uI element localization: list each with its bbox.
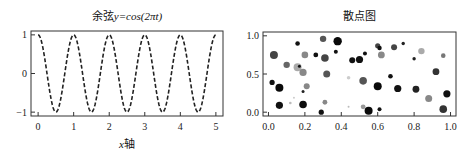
scatter-point (443, 90, 450, 97)
scatter-point (365, 107, 373, 115)
scatter-point (298, 65, 301, 68)
scatter-point (276, 102, 283, 109)
scatter-point (304, 83, 310, 89)
scatter-point (289, 102, 292, 105)
scatter-point (441, 53, 446, 58)
scatter-point (320, 36, 326, 42)
scatter-ytick-label: 0.5 (247, 69, 260, 80)
scatter-point (412, 57, 415, 60)
scatter-chart: 0.00.20.40.60.81.00.00.51.0 (0, 0, 468, 157)
scatter-point (374, 82, 382, 90)
scatter-point (349, 57, 355, 63)
scatter-point (359, 77, 367, 85)
scatter-point (321, 54, 329, 62)
scatter-ytick-label: 1.0 (247, 30, 260, 41)
scatter-point (302, 52, 309, 59)
scatter-point (356, 56, 363, 63)
scatter-point (363, 51, 367, 55)
scatter-point (378, 52, 385, 59)
scatter-xtick-label: 1.0 (444, 121, 457, 132)
scatter-point (293, 97, 295, 99)
scatter-point (377, 46, 381, 50)
scatter-point (319, 110, 324, 115)
scatter-point (347, 76, 351, 80)
scatter-point (361, 104, 366, 109)
scatter-point (433, 68, 440, 75)
scatter-point (402, 42, 405, 45)
scatter-point (299, 69, 306, 76)
scatter-xtick-label: 0.4 (335, 121, 348, 132)
scatter-ytick-label: 0.0 (247, 107, 260, 118)
scatter-point (323, 100, 328, 105)
scatter-point (348, 106, 350, 108)
scatter-point (270, 80, 275, 85)
scatter-xtick-label: 0.0 (262, 121, 275, 132)
scatter-xtick-label: 0.8 (408, 121, 421, 132)
scatter-point (283, 62, 289, 68)
scatter-xtick-label: 0.6 (371, 121, 384, 132)
figure: 余弦y=cos(2πt) x轴 散点图 012345−101 0.00.20.4… (0, 0, 468, 157)
scatter-point (313, 53, 318, 58)
scatter-point (425, 95, 432, 102)
scatter-xtick-label: 0.2 (299, 121, 312, 132)
scatter-point (418, 48, 424, 54)
scatter-point (275, 84, 283, 92)
scatter-point (334, 50, 338, 54)
scatter-point (295, 41, 300, 46)
scatter-point (388, 74, 393, 79)
scatter-point (391, 44, 397, 50)
scatter-point (302, 90, 305, 93)
scatter-point (378, 107, 382, 111)
scatter-axes-frame (263, 32, 456, 116)
scatter-point (299, 101, 307, 109)
scatter-point (323, 71, 330, 78)
scatter-point (439, 105, 447, 113)
scatter-point (333, 37, 341, 45)
scatter-point (270, 51, 278, 59)
scatter-point (413, 86, 420, 93)
scatter-point (394, 85, 401, 92)
